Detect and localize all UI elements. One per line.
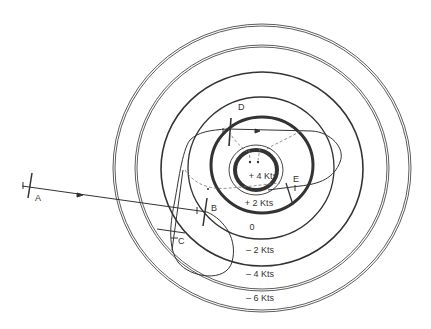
point-label-e: E (293, 174, 299, 184)
point-label-b: B (211, 203, 217, 213)
dashed-path-left (230, 131, 247, 152)
speed-label-plus-2: + 2 Kts (245, 198, 274, 208)
speed-label-minus-4: – 4 Kts (246, 269, 275, 279)
speed-label-minus-6: – 6 Kts (246, 293, 275, 303)
point-label-d: D (238, 102, 245, 112)
ring-outer-double-b (115, 26, 409, 310)
track-b-loop (171, 129, 234, 276)
center-dot-a (249, 161, 251, 163)
speed-label-plus-4: + 4 Kts (249, 171, 278, 181)
marker-e (286, 183, 293, 205)
speed-label-zero: 0 (249, 222, 254, 232)
tidal-diagram: + 4 Kts + 2 Kts 0 – 2 Kts – 4 Kts – 6 Kt… (0, 0, 431, 329)
speed-label-minus-2: – 2 Kts (246, 245, 275, 255)
point-label-a: A (35, 193, 41, 203)
ring-plus-four-thin (229, 145, 283, 195)
center-dot-b (257, 161, 259, 163)
marker-a (28, 173, 32, 198)
arrow-a-b (77, 193, 83, 197)
dashed-path-right (265, 131, 300, 150)
track-d-e (228, 129, 341, 190)
ring-third (161, 72, 363, 266)
dot-lower (207, 188, 209, 190)
point-label-c: C (178, 236, 185, 246)
